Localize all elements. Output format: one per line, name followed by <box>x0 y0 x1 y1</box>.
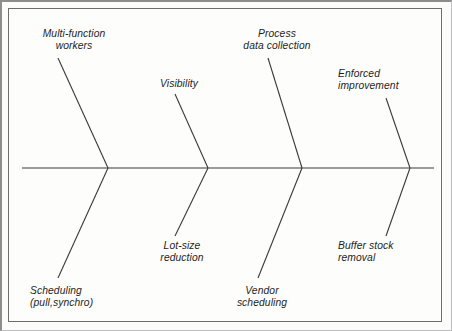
bone-line-enforced-improvement <box>386 98 410 168</box>
bone-label-process-data-collection: Process data collection <box>231 28 323 51</box>
bone-line-visibility <box>175 94 208 168</box>
bone-label-vendor-scheduling: Vendor scheduling <box>219 285 305 308</box>
bone-label-lot-size-reduction: Lot-size reduction <box>146 240 218 263</box>
bone-label-buffer-stock-removal: Buffer stock removal <box>338 240 426 263</box>
bone-line-buffer-stock-removal <box>386 168 410 236</box>
bone-line-multi-function-workers <box>58 58 108 168</box>
fishbone-diagram-page: Multi-function workers Visibility Proces… <box>0 0 452 331</box>
bone-line-scheduling-pull-synchro <box>58 168 108 278</box>
bone-label-scheduling-pull-synchro: Scheduling (pull,synchro) <box>30 285 126 308</box>
bone-line-process-data-collection <box>268 58 302 168</box>
bone-line-vendor-scheduling <box>258 168 302 278</box>
bone-label-enforced-improvement: Enforced improvement <box>338 68 428 91</box>
bone-line-lot-size-reduction <box>175 168 208 236</box>
bone-label-visibility: Visibility <box>148 78 210 90</box>
bone-label-multi-function-workers: Multi-function workers <box>28 28 120 51</box>
